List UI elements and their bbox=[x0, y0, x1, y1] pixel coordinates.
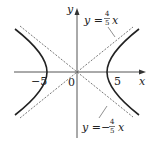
x-axis bbox=[14, 70, 146, 75]
asymptote-label-negative: y = − 4 5 x bbox=[81, 118, 125, 135]
hyperbola-diagram: y x 0 −5 5 y = 4 5 x y = − 4 5 x bbox=[0, 0, 156, 141]
y-axis-label: y bbox=[66, 3, 74, 16]
svg-text:5: 5 bbox=[110, 127, 114, 135]
svg-text:x: x bbox=[118, 121, 125, 134]
leader-positive bbox=[108, 27, 115, 37]
svg-text:y =: y = bbox=[81, 121, 101, 134]
tick-label-neg5: −5 bbox=[31, 75, 47, 88]
svg-text:y =: y = bbox=[83, 14, 103, 27]
tick-label-5: 5 bbox=[114, 75, 121, 88]
svg-text:−: − bbox=[101, 121, 110, 134]
origin-label: 0 bbox=[68, 76, 75, 89]
x-axis-label: x bbox=[139, 75, 146, 88]
svg-text:5: 5 bbox=[105, 19, 109, 27]
svg-text:4: 4 bbox=[110, 118, 115, 126]
leader-negative bbox=[99, 106, 107, 118]
svg-text:x: x bbox=[112, 14, 119, 27]
svg-text:4: 4 bbox=[105, 10, 110, 18]
asymptote-label-positive: y = 4 5 x bbox=[83, 10, 119, 27]
